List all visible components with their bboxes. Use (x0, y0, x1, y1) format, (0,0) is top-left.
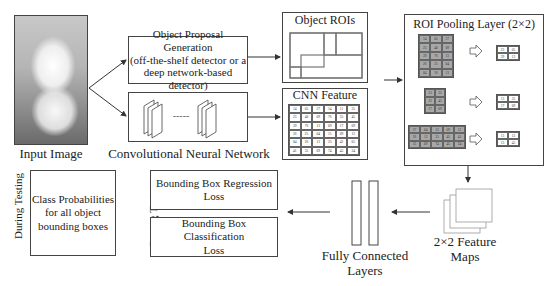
regression-line-1: Bounding Box Regression (156, 177, 272, 190)
object-proposal-box: Object Proposal Generation (off-the-shel… (128, 36, 248, 84)
input-image (14, 15, 88, 145)
fc-line-1: Fully Connected (320, 249, 410, 264)
class-prob-line-3: bounding boxes (38, 220, 108, 233)
roi-pool-output-1: 2305 3913 (496, 45, 520, 61)
cnn-dashes: ----- (168, 110, 194, 122)
classification-line-2: Loss (204, 244, 225, 257)
feature-maps-line-1: 2×2 Feature (425, 235, 505, 250)
object-rois-title: Object ROIs (282, 14, 368, 28)
proposal-line-1: Object Proposal Generation (129, 28, 247, 53)
class-prob-line-2: for all object (45, 206, 101, 219)
bbox-classification-loss-box: Bounding Box Classification Loss (150, 217, 278, 257)
roi-pool-input-3: 2704130912 2613354545 3509744524 (408, 125, 466, 149)
roi-pool-input-2: 1335 3245 1709 (424, 88, 446, 114)
proposal-line-2: (off-the-shelf detector or a (130, 54, 246, 67)
feature-maps-line-2: Maps (425, 250, 505, 265)
roi-pool-input-1: 140527 234009 397613 262504 042613 (418, 34, 454, 78)
feature-map-grid: 140527141135 234009763545 397613091709 2… (288, 104, 360, 156)
cnn-label: Convolutional Neural Network (104, 147, 274, 162)
feature-maps-2x2-label: 2×2 Feature Maps (425, 235, 505, 265)
stacked-feature-maps-icon (444, 189, 492, 233)
bbox-regression-loss-box: Bounding Box Regression Loss (150, 170, 278, 210)
roi-pooling-title: ROI Pooling Layer (2×2) (404, 18, 544, 32)
regression-line-2: Loss (204, 190, 225, 203)
classification-line-1: Bounding Box Classification (151, 217, 277, 243)
input-image-label: Input Image (6, 147, 96, 162)
fc-line-2: Layers (320, 264, 410, 279)
fc-layer-bars (352, 181, 378, 245)
roi-pool-output-3: 1312 1345 (496, 131, 520, 147)
fc-layers-label: Fully Connected Layers (320, 249, 410, 279)
during-testing-label: During Testing (12, 161, 24, 251)
proposal-line-3: deep network-based detector) (129, 66, 247, 91)
roi-pool-output-2: 1335 1709 (496, 94, 520, 110)
class-prob-line-1: Class Probabilities (32, 193, 114, 206)
class-probabilities-box: Class Probabilities for all object bound… (30, 170, 116, 256)
